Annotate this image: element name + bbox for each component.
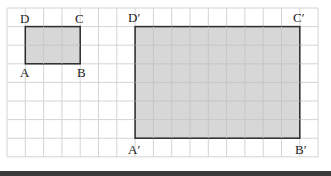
- vertex-label-a: A: [20, 65, 30, 80]
- vertex-label-c: C: [75, 11, 84, 26]
- similar-rectangles-diagram: D C A B D′ C′ A′ B′: [0, 0, 331, 176]
- vertex-label-b-prime: B′: [295, 142, 307, 157]
- vertex-label-d-prime: D′: [128, 10, 140, 25]
- vertex-label-b: B: [77, 65, 86, 80]
- bottom-border: [0, 171, 331, 176]
- vertex-label-c-prime: C′: [293, 10, 305, 25]
- vertex-label-d: D: [20, 11, 29, 26]
- vertex-label-a-prime: A′: [128, 142, 140, 157]
